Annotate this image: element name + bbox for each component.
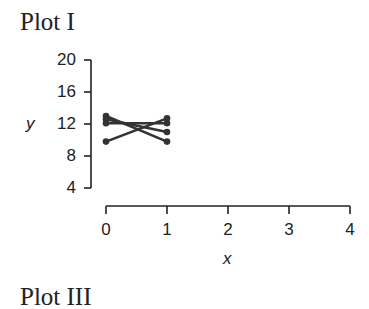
data-point bbox=[164, 129, 171, 136]
x-tick-label: 0 bbox=[96, 220, 116, 240]
y-tick-label: 4 bbox=[36, 178, 76, 198]
y-tick-label: 12 bbox=[36, 114, 76, 134]
x-tick-label: 1 bbox=[157, 220, 177, 240]
y-axis-label: y bbox=[26, 114, 35, 134]
x-axis-label: x bbox=[223, 249, 232, 269]
x-tick-label: 4 bbox=[340, 220, 360, 240]
x-axis bbox=[106, 206, 350, 214]
data-series bbox=[103, 113, 171, 145]
data-point bbox=[103, 120, 110, 127]
data-point bbox=[103, 138, 110, 145]
x-tick-label: 2 bbox=[218, 220, 238, 240]
y-axis bbox=[84, 60, 91, 188]
next-plot-title: Plot III bbox=[20, 283, 92, 309]
y-tick-label: 16 bbox=[36, 82, 76, 102]
data-point bbox=[164, 138, 171, 145]
x-tick-label: 3 bbox=[279, 220, 299, 240]
data-point bbox=[164, 115, 171, 122]
y-tick-label: 20 bbox=[36, 50, 76, 70]
y-tick-label: 8 bbox=[36, 146, 76, 166]
